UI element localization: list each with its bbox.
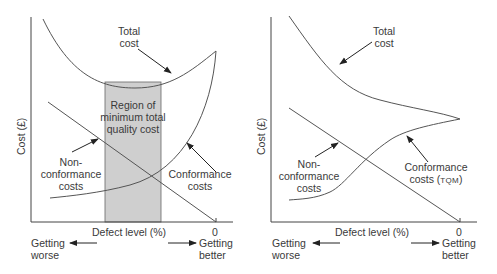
conformance-label-right: Conformance costs (TQM): [400, 161, 472, 187]
diagram-canvas: [0, 0, 497, 274]
total-cost-label: Total cost: [118, 25, 140, 49]
x-axis-label-right: Defect level (%): [335, 226, 409, 238]
region-label: Region of minimum total quality cost: [97, 99, 169, 135]
worse-label-right: Getting worse: [272, 237, 306, 261]
total-cost-arrow-right: [340, 42, 372, 64]
right-diagram: [271, 16, 477, 243]
nonconformance-arrow-right: [315, 143, 338, 157]
better-label: Getting better: [199, 237, 233, 261]
y-axis-label: Cost (£): [15, 118, 27, 155]
conformance-label: Conformance costs: [167, 168, 233, 192]
worse-label: Getting worse: [31, 237, 65, 261]
x-axis-label: Defect level (%): [92, 226, 166, 238]
conformance-arrow-right: [407, 136, 428, 162]
total-cost-label-right: Total cost: [373, 25, 395, 49]
better-label-right: Getting better: [442, 237, 476, 261]
nonconformance-label-right: Non- conformance costs: [276, 158, 342, 194]
nonconformance-arrow: [72, 139, 98, 152]
y-axis-label-right: Cost (£): [255, 118, 267, 155]
nonconformance-label: Non- conformance costs: [38, 156, 104, 192]
total-cost-arrow: [138, 49, 171, 73]
